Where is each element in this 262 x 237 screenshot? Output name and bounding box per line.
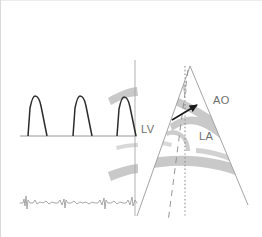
extra-sector-tissue (108, 87, 138, 181)
doppler-envelopes (28, 96, 136, 136)
label-ao: AO (213, 94, 230, 106)
doppler-envelope-1 (28, 96, 47, 136)
doppler-envelope-3 (117, 97, 136, 136)
ecg-trace (20, 196, 137, 209)
echo-figure-container: LV AO LA (0, 0, 262, 237)
sector-left-edge (137, 66, 190, 216)
posterior-aortic-root-band (170, 116, 226, 140)
figure-canvas: LV AO LA (0, 0, 262, 237)
anterior-wall-extension (108, 87, 138, 105)
sector-outline (137, 66, 248, 216)
posterior-wall-extension (108, 164, 138, 181)
label-la: LA (199, 130, 214, 142)
label-lv: LV (141, 123, 155, 135)
doppler-envelope-2 (73, 96, 92, 136)
